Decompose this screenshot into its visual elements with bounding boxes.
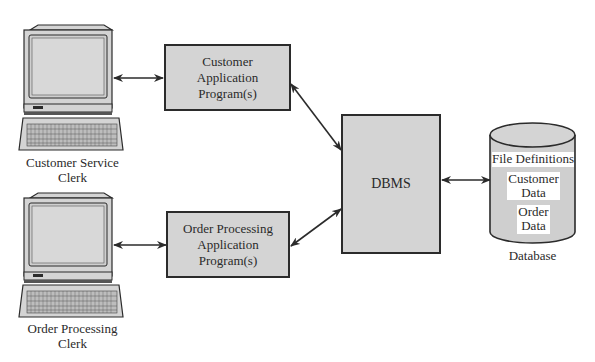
order-data-line: Order — [517, 205, 550, 219]
database-label: Database — [490, 248, 575, 263]
customer-data-box: Customer Data — [507, 172, 560, 200]
label-line: Clerk — [0, 170, 145, 185]
customer-service-clerk-label: Customer Service Clerk — [0, 155, 145, 185]
dbms-box: DBMS — [341, 114, 441, 254]
order-processing-application-program-box: Order Processing Application Program(s) — [166, 211, 290, 278]
database-label-text: Database — [509, 248, 557, 263]
arrow-order-app-to-dbms — [291, 209, 341, 246]
order-processing-clerk-label: Order Processing Clerk — [0, 321, 145, 351]
label-line: Clerk — [0, 336, 145, 351]
file-definitions-label: File Definitions — [492, 151, 574, 166]
box-text-line: Program(s) — [199, 253, 258, 269]
box-text-line: Order Processing — [183, 221, 273, 237]
label-line: Order Processing — [0, 321, 145, 336]
label-line: Customer Service — [0, 155, 145, 170]
computer-terminal-icon — [19, 193, 123, 317]
order-data-box: Order Data — [517, 205, 550, 234]
order-data-line: Data — [517, 219, 550, 233]
customer-data-line: Customer — [507, 172, 560, 186]
file-definitions-band: File Definitions — [492, 152, 574, 167]
computer-terminal-icon — [19, 25, 123, 150]
box-text-line: Customer — [202, 54, 253, 70]
dbms-label: DBMS — [371, 176, 411, 192]
customer-data-line: Data — [507, 186, 560, 200]
box-text-line: Application — [197, 70, 258, 86]
arrow-customer-app-to-dbms — [291, 84, 341, 150]
box-text-line: Application — [197, 237, 258, 253]
customer-application-program-box: Customer Application Program(s) — [164, 44, 291, 111]
box-text-line: Program(s) — [198, 86, 257, 102]
